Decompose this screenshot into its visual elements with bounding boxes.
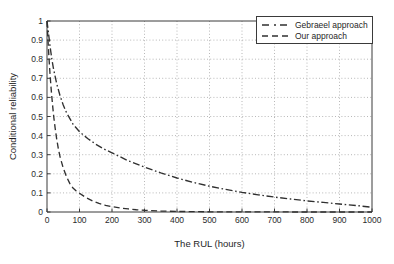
y-tick-label: 0.3 [31, 150, 43, 160]
x-tick-label: 500 [202, 215, 216, 225]
x-tick-label: 700 [267, 215, 281, 225]
legend-label-gebraeel: Gebraeel approach [295, 20, 368, 30]
legend-label-our-approach: Our approach [295, 31, 347, 41]
x-tick-label: 0 [45, 215, 50, 225]
y-tick-label: 0.2 [31, 169, 43, 179]
y-tick-label: 0.5 [31, 112, 43, 122]
y-tick-label: 0.7 [31, 73, 43, 83]
y-tick-label: 0.9 [31, 35, 43, 45]
y-axis-title: Conditional reliability [7, 73, 18, 160]
x-tick-label: 300 [137, 215, 151, 225]
y-tick-label: 0.8 [31, 54, 43, 64]
y-tick-label: 0.6 [31, 92, 43, 102]
y-tick-label: 0.1 [31, 188, 43, 198]
x-tick-label: 800 [300, 215, 314, 225]
conditional-reliability-chart: 01002003004005006007008009001000 00.10.2… [0, 0, 394, 264]
x-tick-label: 600 [235, 215, 249, 225]
x-tick-label: 400 [170, 215, 184, 225]
y-tick-label: 1 [38, 16, 43, 26]
chart-legend[interactable]: Gebraeel approach Our approach [257, 17, 373, 44]
y-tick-label: 0 [38, 207, 43, 217]
x-tick-label: 1000 [363, 215, 382, 225]
figure-canvas: 01002003004005006007008009001000 00.10.2… [0, 0, 394, 264]
y-tick-label: 0.4 [31, 131, 43, 141]
x-tick-label: 900 [332, 215, 346, 225]
x-axis-title: The RUL (hours) [174, 238, 244, 249]
x-tick-label: 100 [72, 215, 86, 225]
x-tick-label: 200 [105, 215, 119, 225]
